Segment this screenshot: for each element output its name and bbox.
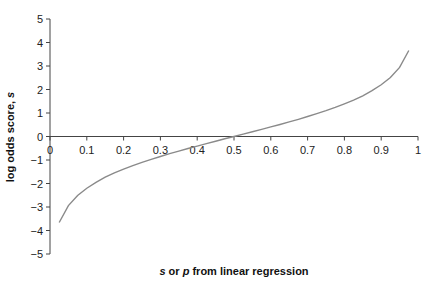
y-tick-label: −5 [30, 248, 43, 260]
x-tick-label: 0.9 [374, 144, 389, 156]
x-axis-title: s or p from linear regression [159, 265, 308, 277]
y-tick-label: 1 [37, 107, 43, 119]
y-tick-label: 5 [37, 13, 43, 25]
x-tick-label: 0 [47, 144, 53, 156]
y-tick-label: 0 [37, 131, 43, 143]
y-axis-title: log odds score, s [4, 92, 16, 182]
x-tick-label: 0.6 [263, 144, 278, 156]
chart-canvas: 543210−1−2−3−4−5 00.10.20.30.40.50.60.70… [0, 0, 431, 289]
x-tick-label: 0.2 [116, 144, 131, 156]
x-tick-label: 0.3 [153, 144, 168, 156]
y-tick-label: 2 [37, 84, 43, 96]
y-tick-label: −3 [30, 201, 43, 213]
y-tick-label: 3 [37, 60, 43, 72]
x-tick-label: 1 [415, 144, 421, 156]
x-tick-label: 0.5 [226, 144, 241, 156]
y-tick-label: −2 [30, 178, 43, 190]
y-tick-label: −4 [30, 225, 43, 237]
y-tick-label: −1 [30, 154, 43, 166]
x-axis: 00.10.20.30.40.50.60.70.80.91 [47, 137, 421, 156]
x-tick-label: 0.7 [300, 144, 315, 156]
x-tick-label: 0.1 [79, 144, 94, 156]
y-tick-label: 4 [37, 37, 43, 49]
y-axis: 543210−1−2−3−4−5 [30, 13, 50, 260]
x-tick-label: 0.8 [337, 144, 352, 156]
